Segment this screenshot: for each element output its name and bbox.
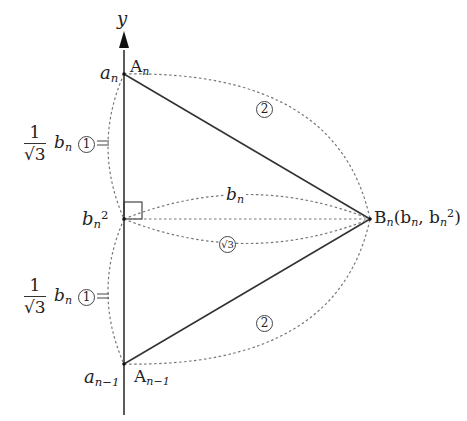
label-point-Bn: Bn(bn, bn2): [374, 208, 461, 228]
point-Bn: [368, 217, 372, 221]
fraction-upper-left: 1 √3: [24, 124, 46, 163]
label-upper-left-bn: bn: [54, 134, 72, 153]
label-point-Aprev: An−1: [134, 368, 170, 387]
label-a-n: an: [100, 64, 118, 85]
label-lower-left-bn: bn: [54, 287, 72, 306]
y-axis-label: y: [117, 10, 127, 28]
ratio-badge-lower-right: 2: [256, 315, 273, 332]
label-horizontal-bn: bn: [224, 186, 246, 205]
arc-lower-left: [108, 219, 124, 364]
tick-lower-left: [97, 294, 109, 298]
arc-upper-left: [108, 74, 124, 219]
ratio-badge-lower-left: 1: [78, 288, 95, 306]
segment-Aprev-Bn: [124, 219, 370, 364]
ratio-badge-upper-left: 1: [78, 135, 95, 153]
label-a-n-minus-1: an−1: [84, 368, 120, 389]
y-axis-arrow-icon: [119, 31, 129, 48]
ratio-badge-upper-right: 2: [256, 101, 273, 118]
tick-upper-left: [97, 141, 109, 145]
segment-An-Bn: [124, 74, 370, 219]
label-point-An: An: [130, 58, 149, 77]
fraction-lower-left: 1 √3: [24, 277, 46, 316]
point-Aprev: [122, 362, 126, 366]
right-angle-marker: [124, 202, 142, 219]
label-b-n-squared: bn2: [82, 210, 109, 231]
point-mid: [122, 217, 126, 221]
ratio-badge-sqrt3: √3: [219, 236, 236, 253]
point-An: [122, 72, 126, 76]
